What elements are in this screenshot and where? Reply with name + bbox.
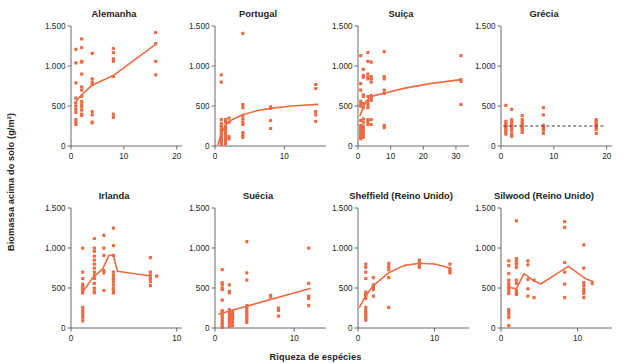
x-tick-label: 0 (499, 334, 504, 343)
y-tick-label: 0 (491, 324, 496, 333)
x-tick-label: 10 (119, 152, 129, 161)
x-tick-label: 0 (69, 334, 74, 343)
y-tick-label: 500 (196, 102, 210, 111)
y-tick-label: 0 (491, 142, 496, 151)
x-tick-label: 20 (172, 152, 182, 161)
fit-line (360, 263, 450, 307)
fit-line (82, 255, 151, 293)
fit-line (360, 80, 461, 116)
y-tick-label: 1.000 (189, 244, 210, 253)
y-tick-label: 1.500 (45, 22, 66, 31)
y-tick-label: 1.500 (475, 204, 496, 213)
x-tick-label: 10 (549, 152, 559, 161)
fit-line (75, 44, 156, 102)
y-axis-label: Biomassa acima do solo (g/m²) (2, 0, 20, 364)
y-tick-label: 500 (339, 102, 353, 111)
panel-plot: 05001.0001.5000102030 (325, 8, 477, 176)
panel-sui-a: Suiça05001.0001.5000102030 (325, 8, 477, 176)
panel-gr-cia: Grécia05001.0001.50001020 (468, 8, 620, 176)
y-tick-label: 1.500 (189, 22, 210, 31)
panel-plot: 05001.0001.500010 (182, 8, 334, 176)
x-tick-label: 10 (290, 334, 300, 343)
y-tick-label: 1.000 (45, 244, 66, 253)
data-points (221, 240, 311, 329)
x-tick-label: 20 (602, 152, 612, 161)
panel-title: Portugal (182, 8, 334, 19)
panel-title: Suiça (325, 8, 477, 19)
y-tick-label: 1.500 (189, 204, 210, 213)
y-tick-label: 500 (196, 284, 210, 293)
y-tick-label: 1.500 (475, 22, 496, 31)
y-tick-label: 500 (339, 284, 353, 293)
y-tick-label: 0 (205, 324, 210, 333)
y-tick-label: 500 (482, 102, 496, 111)
y-tick-label: 0 (61, 324, 66, 333)
y-tick-label: 1.000 (332, 62, 353, 71)
data-points (74, 31, 157, 126)
y-tick-label: 1.000 (475, 244, 496, 253)
fit-line (218, 104, 318, 144)
panel-portugal: Portugal05001.0001.500010 (182, 8, 334, 176)
x-tick-label: 30 (451, 152, 461, 161)
data-points (507, 219, 594, 327)
data-points (504, 104, 598, 138)
x-tick-label: 0 (213, 334, 218, 343)
panel-silwood-reino-unido: Silwood (Reino Unido)05001.0001.500010 (468, 190, 620, 358)
fit-line (219, 288, 310, 314)
y-tick-label: 1.000 (332, 244, 353, 253)
y-tick-label: 500 (52, 284, 66, 293)
data-points (81, 227, 158, 323)
y-tick-label: 0 (348, 324, 353, 333)
y-tick-label: 0 (205, 142, 210, 151)
panel-su-cia: Suécia05001.0001.500010 (182, 190, 334, 358)
data-points (220, 32, 318, 146)
fit-line (509, 266, 593, 288)
panel-title: Silwood (Reino Unido) (468, 190, 620, 201)
panel-sheffield-reino-unido: Sheffield (Reino Unido)05001.0001.500010 (325, 190, 477, 358)
panel-title: Alemanha (38, 8, 190, 19)
data-points (364, 259, 451, 322)
panel-title: Irlanda (38, 190, 190, 201)
y-tick-label: 1.000 (475, 62, 496, 71)
x-tick-label: 10 (386, 152, 396, 161)
panel-plot: 05001.0001.500010 (325, 190, 477, 358)
panel-plot: 05001.0001.50001020 (38, 8, 190, 176)
panel-irlanda: Irlanda05001.0001.500010 (38, 190, 190, 358)
x-tick-label: 10 (573, 334, 583, 343)
x-tick-label: 10 (172, 334, 182, 343)
x-tick-label: 0 (499, 152, 504, 161)
panel-title: Grécia (468, 8, 620, 19)
x-tick-label: 0 (69, 152, 74, 161)
panel-plot: 05001.0001.50001020 (468, 8, 620, 176)
panel-plot: 05001.0001.500010 (468, 190, 620, 358)
figure-panel-grid: Biomassa acima do solo (g/m²) Riqueza de… (0, 0, 631, 364)
panel-plot: 05001.0001.500010 (182, 190, 334, 358)
y-tick-label: 1.500 (332, 204, 353, 213)
panel-alemanha: Alemanha05001.0001.50001020 (38, 8, 190, 176)
y-tick-label: 500 (52, 102, 66, 111)
y-tick-label: 1.000 (189, 62, 210, 71)
x-tick-label: 10 (430, 334, 440, 343)
x-tick-label: 0 (356, 334, 361, 343)
y-tick-label: 0 (61, 142, 66, 151)
x-tick-label: 0 (356, 152, 361, 161)
y-tick-label: 1.500 (45, 204, 66, 213)
y-tick-label: 1.500 (332, 22, 353, 31)
panel-plot: 05001.0001.500010 (38, 190, 190, 358)
panel-title: Suécia (182, 190, 334, 201)
y-tick-label: 0 (348, 142, 353, 151)
x-tick-label: 0 (213, 152, 218, 161)
panel-title: Sheffield (Reino Unido) (325, 190, 477, 201)
y-tick-label: 1.000 (45, 62, 66, 71)
y-tick-label: 500 (482, 284, 496, 293)
x-tick-label: 20 (419, 152, 429, 161)
x-tick-label: 10 (280, 152, 290, 161)
